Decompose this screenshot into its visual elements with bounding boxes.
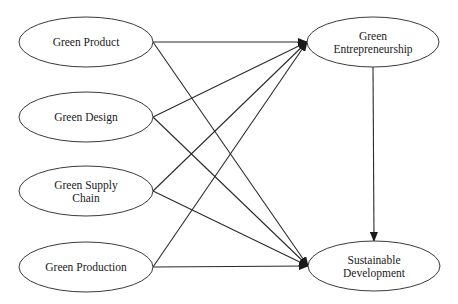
arrow-green_supply_chain-to-sustainable_development: [153, 191, 308, 266]
node-green-entrepreneurship: GreenEntrepreneurship: [307, 17, 439, 67]
arrow-green_design-to-green_entrepreneurship: [153, 42, 307, 117]
arrow-green_supply_chain-to-green_entrepreneurship: [153, 42, 307, 191]
node-label: Chain: [72, 192, 100, 204]
node-label: Green: [359, 30, 387, 42]
node-green-design: Green Design: [19, 92, 153, 142]
node-label: Green Product: [53, 36, 121, 48]
arrow-green_production-to-sustainable_development: [153, 266, 308, 267]
node-green-product: Green Product: [19, 17, 153, 67]
node-green-supply-chain: Green SupplyChain: [19, 166, 153, 216]
node-label: Green Production: [45, 261, 127, 273]
node-green-production: Green Production: [19, 242, 153, 292]
node-label: Green Supply: [54, 179, 118, 192]
node-sustainable-development: SustainableDevelopment: [308, 241, 440, 291]
arrow-green_entrepreneurship-to-sustainable_development: [373, 67, 374, 241]
node-label: Development: [343, 267, 406, 280]
node-label: Entrepreneurship: [333, 43, 412, 56]
node-label: Green Design: [54, 111, 118, 124]
path-diagram: Green ProductGreen DesignGreen SupplyCha…: [0, 0, 458, 304]
arrow-green_design-to-sustainable_development: [153, 117, 308, 266]
node-label: Sustainable: [347, 254, 400, 266]
edges-layer: [153, 42, 374, 267]
